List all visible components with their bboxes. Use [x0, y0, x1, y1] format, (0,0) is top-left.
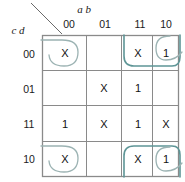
group-top-left-wrap-loop [41, 40, 78, 66]
column-header-1: 01 [99, 18, 111, 30]
cell-r0-c2: X [134, 47, 142, 59]
karnaugh-map-diagram: a b c d 00 01 11 10 00 01 11 10 [0, 0, 185, 182]
cell-r1-c1: X [100, 82, 108, 94]
cell-r3-c2: X [134, 153, 142, 165]
cell-r2-c2: 1 [135, 118, 141, 130]
row-header-0: 00 [23, 48, 35, 60]
row-header-3: 10 [23, 153, 35, 165]
column-axis-label: a b [77, 3, 91, 15]
axis-header-corner: a b c d [11, 3, 91, 36]
row-axis-label: c d [11, 24, 25, 36]
axis-diagonal-line [31, 3, 62, 34]
row-header-1: 01 [23, 83, 35, 95]
column-headers: 00 01 11 10 [63, 18, 172, 30]
column-header-2: 11 [135, 18, 146, 30]
cell-r2-c1: X [100, 118, 108, 130]
cell-r0-c3: 1 [163, 47, 169, 59]
column-header-3: 10 [160, 18, 172, 30]
cell-r1-c2: 1 [135, 82, 141, 94]
cell-r3-c0: X [61, 153, 69, 165]
cell-r0-c0: X [61, 47, 69, 59]
row-header-2: 11 [24, 118, 35, 130]
row-headers: 00 01 11 10 [23, 48, 35, 165]
group-bottom-left-wrap-loop [41, 146, 78, 172]
cell-r2-c3: X [162, 118, 170, 130]
column-header-0: 00 [63, 18, 75, 30]
cell-r2-c0: 1 [62, 118, 68, 130]
cell-r3-c3: 1 [163, 153, 169, 165]
